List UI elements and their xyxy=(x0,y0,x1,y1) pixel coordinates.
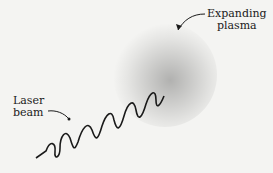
plasma-label: Expanding plasma xyxy=(207,8,267,32)
laser-pointer-arrow xyxy=(48,111,69,119)
laser-label: Laser beam xyxy=(13,95,44,119)
plasma-cloud xyxy=(113,23,217,127)
plasma-label-line2: plasma xyxy=(207,20,267,32)
laser-label-line2: beam xyxy=(13,107,44,119)
